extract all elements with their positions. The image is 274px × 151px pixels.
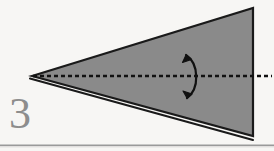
figure-number-label: 3 [9, 92, 31, 136]
figure-container: 3 [0, 0, 274, 151]
figure-drawing [0, 0, 274, 151]
